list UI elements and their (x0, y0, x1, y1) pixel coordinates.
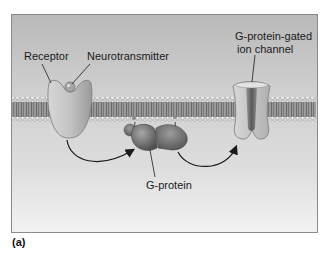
neurotransmitter-molecule (65, 82, 75, 92)
receptor-leader-line (42, 64, 51, 83)
panel-label: (a) (12, 236, 25, 248)
gprotein-leader-line (150, 150, 155, 177)
ion-channel (233, 82, 270, 140)
arrow-gprotein-to-channel (178, 147, 236, 166)
ion-channel-label-line1: G-protein-gated (235, 30, 312, 42)
neurotransmitter-label: Neurotransmitter (87, 50, 169, 62)
arrow-receptor-to-gprotein (67, 140, 133, 161)
receptor-label: Receptor (24, 50, 69, 62)
ion-channel-label-line2: ion channel (237, 43, 293, 55)
g-protein-label: G-protein (146, 179, 192, 191)
ion-channel-leader-line (252, 55, 255, 82)
